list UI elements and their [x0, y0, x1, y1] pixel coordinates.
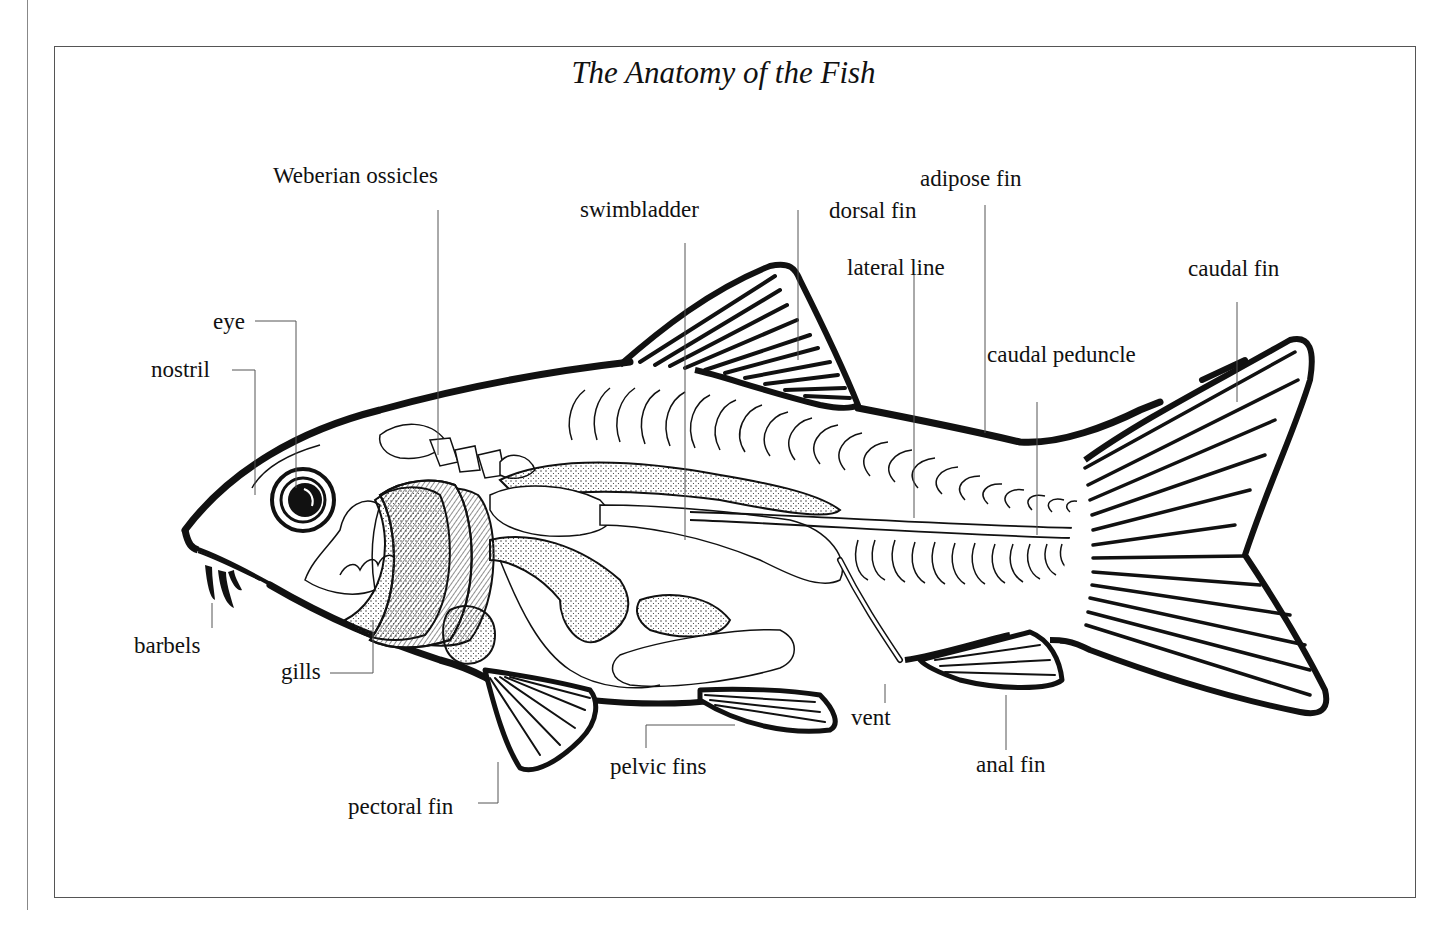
label-lateral-line: lateral line — [847, 256, 945, 279]
label-adipose-fin: adipose fin — [920, 167, 1022, 190]
eye-shape — [272, 469, 334, 531]
label-weberian-ossicles: Weberian ossicles — [273, 164, 438, 187]
label-caudal-fin: caudal fin — [1188, 257, 1279, 280]
skull-bones-shape — [380, 424, 535, 478]
barbels-shape — [205, 565, 242, 608]
label-pelvic-fins: pelvic fins — [610, 755, 706, 778]
label-anal-fin: anal fin — [976, 753, 1046, 776]
label-nostril: nostril — [151, 358, 210, 381]
dorsal-fin-shape — [620, 265, 858, 408]
viscera-shape — [490, 537, 900, 688]
leader-pelvic-fins — [646, 725, 735, 748]
label-vent: vent — [851, 706, 891, 729]
anal-fin-shape — [920, 632, 1062, 688]
lower-ribs-shape — [856, 540, 1070, 584]
leader-pectoral-fin — [478, 762, 498, 803]
caudal-fin-shape — [1050, 339, 1326, 713]
label-dorsal-fin: dorsal fin — [829, 199, 917, 222]
label-barbels: barbels — [134, 634, 200, 657]
pectoral-fin-shape — [485, 670, 596, 770]
fish-illustration — [0, 0, 1447, 927]
label-swimbladder: swimbladder — [580, 198, 699, 221]
label-gills: gills — [281, 660, 321, 683]
label-pectoral-fin: pectoral fin — [348, 795, 453, 818]
label-caudal-peduncle: caudal peduncle — [987, 343, 1136, 366]
heart-shape — [443, 606, 495, 664]
label-eye: eye — [213, 310, 245, 333]
